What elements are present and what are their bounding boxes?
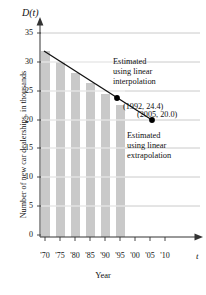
bar xyxy=(71,73,80,237)
x-tick-label-10: '10 xyxy=(154,252,176,260)
annotation-interpolation: Estimated using linear interpolation xyxy=(113,57,156,88)
y-tick-label-25: 25 xyxy=(13,87,33,95)
y-tick-label-0: 0 xyxy=(13,231,33,239)
y-tick-label-35: 35 xyxy=(13,29,33,37)
x-axis-title: Year xyxy=(0,270,206,280)
annotation-extrapolation-line-3: extrapolation xyxy=(127,151,171,161)
bar xyxy=(41,51,50,237)
data-point-label-2005: (2005, 20.0) xyxy=(137,110,177,119)
y-axis-symbol: D(t) xyxy=(22,7,39,18)
y-tick-label-30: 30 xyxy=(13,58,33,66)
annotation-interpolation-line-3: interpolation xyxy=(113,77,156,87)
chart-figure: D(t) t Number of new car dealerships, in… xyxy=(0,0,206,295)
y-tick-label-15: 15 xyxy=(13,144,33,152)
annotation-extrapolation-line-2: using linear xyxy=(127,141,171,151)
annotation-extrapolation: Estimated using linear extrapolation xyxy=(127,131,171,162)
y-tick-label-20: 20 xyxy=(13,116,33,124)
bar xyxy=(101,94,110,237)
bar xyxy=(116,105,125,237)
x-axis-symbol: t xyxy=(196,251,199,261)
x-tick-marks xyxy=(45,237,165,241)
annotation-extrapolation-line-1: Estimated xyxy=(127,131,171,141)
bar xyxy=(86,83,95,237)
data-point-marker-1992 xyxy=(114,95,120,101)
y-tick-label-10: 10 xyxy=(13,173,33,181)
annotation-interpolation-line-2: using linear xyxy=(113,67,156,77)
y-tick-label-5: 5 xyxy=(13,202,33,210)
bar xyxy=(56,62,65,237)
annotation-interpolation-line-1: Estimated xyxy=(113,57,156,67)
